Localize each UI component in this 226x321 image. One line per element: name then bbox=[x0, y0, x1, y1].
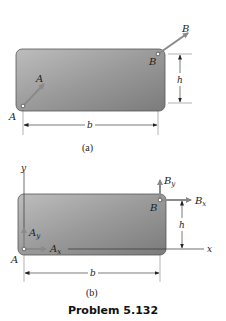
point-b-label: B bbox=[149, 202, 157, 213]
y-axis-label: y bbox=[20, 163, 27, 173]
problem-diagram: A A B B h b (a) y x Ay bbox=[0, 0, 226, 321]
force-bx-label: Bx bbox=[194, 195, 206, 208]
figure-a: A A B B h b (a) bbox=[8, 23, 192, 154]
pin-b bbox=[156, 52, 160, 56]
width-label: b bbox=[90, 268, 96, 278]
caption-b: (b) bbox=[86, 287, 98, 299]
force-b-arrow bbox=[158, 33, 188, 54]
x-axis-label: x bbox=[207, 244, 212, 254]
point-a-label: A bbox=[8, 111, 16, 122]
caption-a: (a) bbox=[82, 142, 93, 154]
force-by-label: By bbox=[163, 175, 176, 188]
width-label: b bbox=[87, 120, 93, 130]
problem-label: Problem 5.132 bbox=[68, 304, 158, 317]
force-a-label: A bbox=[35, 73, 43, 84]
pin-b bbox=[158, 198, 162, 202]
height-label: h bbox=[177, 75, 183, 85]
force-b-label: B bbox=[181, 23, 189, 34]
point-b-label: B bbox=[148, 56, 156, 67]
point-a-label: A bbox=[10, 254, 18, 265]
pin-a bbox=[21, 104, 25, 108]
figure-b: y x Ay Ax A By Bx B h bbox=[10, 163, 212, 299]
plate bbox=[18, 194, 166, 255]
height-label: h bbox=[179, 220, 185, 230]
pin-a bbox=[22, 247, 26, 251]
